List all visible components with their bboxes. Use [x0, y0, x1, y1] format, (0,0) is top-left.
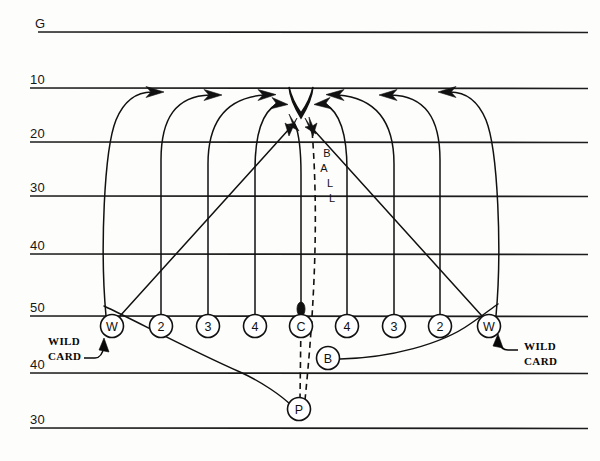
player-label: W — [106, 320, 118, 334]
ball-flight-group — [300, 117, 316, 400]
route-four-right — [325, 104, 347, 316]
route-blocker-release-right — [340, 304, 498, 359]
player-wild-left[interactable]: W — [101, 315, 124, 338]
yard-label-30-own: 30 — [30, 412, 45, 427]
route-two-right — [391, 95, 440, 316]
wild-card-annotation-right: WILD CARD — [493, 334, 557, 367]
route-center-lane — [295, 124, 301, 310]
player-wild-right[interactable]: W — [478, 315, 501, 338]
route-two-left — [161, 95, 210, 316]
return-man-marker — [289, 87, 313, 118]
ball-label-letter-l2: L — [329, 192, 335, 204]
player-four-right[interactable]: 4 — [336, 315, 359, 338]
yard-line-labels-group: G 10 20 30 40 50 40 30 — [30, 16, 45, 427]
player-three-right[interactable]: 3 — [383, 315, 406, 338]
route-four-right-arrowhead — [314, 98, 332, 110]
player-three-left[interactable]: 3 — [197, 315, 220, 338]
player-two-left[interactable]: 2 — [150, 315, 173, 338]
player-punter[interactable]: P — [288, 398, 311, 421]
field-diagram-canvas: G 10 20 30 40 50 40 30 — [0, 0, 600, 461]
player-label: 4 — [344, 320, 351, 334]
yard-label-40: 40 — [30, 238, 45, 253]
yard-line-40 — [30, 254, 588, 255]
yard-line-20 — [30, 142, 588, 143]
wild-card-left-line1: WILD — [48, 335, 80, 347]
route-outside-left-sweep — [103, 92, 152, 316]
player-label: P — [295, 403, 303, 417]
route-outside-right-sweep — [450, 92, 499, 316]
route-wild-right-diagonal — [312, 128, 482, 316]
wild-card-right-line1: WILD — [524, 340, 556, 352]
wild-card-right-line2: CARD — [524, 355, 557, 367]
player-label: 2 — [437, 320, 444, 334]
coverage-routes-left — [103, 87, 301, 407]
wild-card-annotation-left: WILD CARD — [48, 335, 109, 362]
yard-line-40-own — [30, 373, 588, 374]
route-wild-left-diagonal — [120, 128, 290, 316]
yard-label-G: G — [35, 16, 45, 31]
player-two-right[interactable]: 2 — [429, 315, 452, 338]
player-label: B — [324, 352, 332, 366]
punt-path-dashed — [305, 130, 315, 400]
player-center[interactable]: C — [290, 315, 313, 338]
player-label: W — [483, 320, 495, 334]
player-label: C — [296, 320, 305, 334]
yard-label-50: 50 — [30, 300, 45, 315]
yard-line-30-own — [30, 428, 588, 429]
yard-label-20: 20 — [30, 126, 45, 141]
player-label: 4 — [252, 320, 259, 334]
player-label: 3 — [391, 320, 398, 334]
yard-lines-group — [30, 32, 588, 429]
yard-label-30: 30 — [30, 180, 45, 195]
player-label: 2 — [158, 320, 165, 334]
ball-label-letter-a: A — [320, 162, 328, 174]
ball-label-letter-b: B — [323, 147, 330, 159]
wild-card-left-line2: CARD — [48, 350, 81, 362]
yard-line-G — [38, 32, 588, 33]
wild-card-left-pointer-arrowhead — [99, 338, 109, 352]
player-four-left[interactable]: 4 — [244, 315, 267, 338]
yard-line-30 — [30, 196, 588, 197]
return-man-v-icon — [289, 87, 313, 118]
yard-label-40-own: 40 — [30, 357, 45, 372]
player-label: 3 — [205, 320, 212, 334]
punt-coverage-diagram: G 10 20 30 40 50 40 30 — [0, 0, 600, 461]
ball-label-letter-l1: L — [327, 177, 333, 189]
player-blocker[interactable]: B — [317, 347, 340, 370]
yard-line-10 — [30, 88, 588, 89]
route-four-left-arrowhead — [270, 98, 288, 110]
route-four-left — [255, 104, 277, 316]
yard-label-10: 10 — [30, 72, 45, 87]
